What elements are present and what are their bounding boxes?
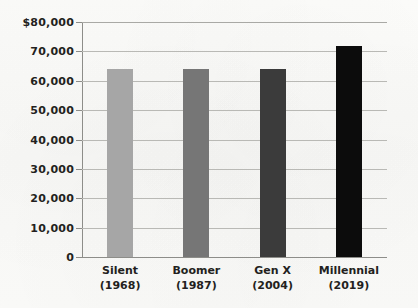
x-axis-labels: Silent(1968)Boomer(1987)Gen X(2004)Mille… <box>82 263 387 305</box>
y-axis-tick-label: 40,000 <box>30 133 74 146</box>
bar-gen-x[interactable] <box>260 69 286 257</box>
bar-silent[interactable] <box>107 69 133 257</box>
y-axis-labels: 010,00020,00030,00040,00050,00060,00070,… <box>0 22 74 257</box>
x-axis-category-label: Silent(1968) <box>100 263 141 293</box>
category-year: (2004) <box>252 278 293 293</box>
y-tick-mark-0 <box>76 257 82 258</box>
y-axis-tick-label: $80,000 <box>22 16 74 29</box>
y-axis-tick-label: 70,000 <box>30 45 74 58</box>
chart-page: 010,00020,00030,00040,00050,00060,00070,… <box>0 0 418 308</box>
gridline-80000 <box>82 22 387 23</box>
category-name: Millennial <box>319 264 379 277</box>
x-axis-category-label: Millennial(2019) <box>319 263 379 293</box>
y-tick-mark-80000 <box>76 22 82 23</box>
y-axis-tick-label: 50,000 <box>30 104 74 117</box>
gridline-0 <box>82 257 387 258</box>
y-tick-mark-40000 <box>76 140 82 141</box>
category-name: Gen X <box>254 264 291 277</box>
y-tick-mark-60000 <box>76 81 82 82</box>
category-name: Boomer <box>172 264 220 277</box>
y-axis-tick-label: 30,000 <box>30 162 74 175</box>
y-axis-tick-label: 20,000 <box>30 192 74 205</box>
y-tick-mark-10000 <box>76 228 82 229</box>
category-year: (2019) <box>319 278 379 293</box>
x-axis-category-label: Boomer(1987) <box>172 263 220 293</box>
category-year: (1968) <box>100 278 141 293</box>
plot-area <box>82 22 387 257</box>
category-name: Silent <box>102 264 138 277</box>
category-year: (1987) <box>172 278 220 293</box>
y-tick-mark-70000 <box>76 51 82 52</box>
y-tick-mark-20000 <box>76 198 82 199</box>
y-tick-mark-50000 <box>76 110 82 111</box>
y-axis-tick-label: 10,000 <box>30 221 74 234</box>
y-axis-tick-label: 0 <box>66 251 74 264</box>
y-tick-mark-30000 <box>76 169 82 170</box>
x-axis-category-label: Gen X(2004) <box>252 263 293 293</box>
bar-millennial[interactable] <box>336 46 362 258</box>
bar-boomer[interactable] <box>183 69 209 257</box>
y-axis-tick-label: 60,000 <box>30 74 74 87</box>
